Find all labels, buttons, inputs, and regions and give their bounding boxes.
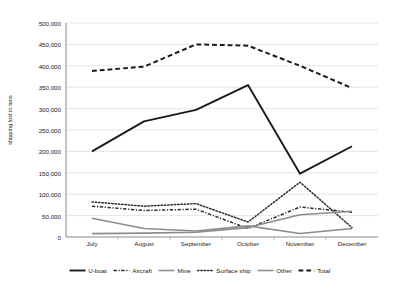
y-axis-tick-labels: 050,000100,000150,000200,000250,000300,0… — [18, 23, 64, 237]
legend-item-mine[interactable]: Mine — [158, 267, 191, 274]
x-tick-label: September — [181, 240, 211, 247]
legend-item-u-boat[interactable]: U-boat — [69, 267, 107, 274]
legend-swatch-u-boat — [69, 267, 86, 274]
y-tick-label: 450,000 — [39, 41, 61, 48]
legend-label-aircraft: Aircraft — [132, 267, 152, 274]
series-line-u-boat — [92, 85, 352, 174]
legend-label-total: Total — [317, 267, 330, 274]
line-chart: shipping lost in tons 050,000100,000150,… — [0, 0, 399, 290]
series-line-total — [92, 44, 352, 88]
legend-swatch-surface-ship — [197, 267, 214, 274]
legend-label-mine: Mine — [177, 267, 190, 274]
y-tick-label: 200,000 — [39, 148, 61, 155]
x-tick-label: October — [237, 240, 259, 247]
x-tick-label: July — [86, 240, 97, 247]
legend-swatch-mine — [158, 267, 175, 274]
chart-legend: U-boatAircraftMineSurface shipOtherTotal — [0, 262, 399, 278]
y-tick-label: 150,000 — [39, 169, 61, 176]
legend-item-total[interactable]: Total — [298, 267, 331, 274]
y-tick-label: 100,000 — [39, 191, 61, 198]
y-tick-label: 0 — [58, 234, 61, 241]
y-tick-label: 300,000 — [39, 105, 61, 112]
legend-swatch-other — [257, 267, 274, 274]
legend-item-aircraft[interactable]: Aircraft — [113, 267, 152, 274]
y-tick-label: 50,000 — [42, 212, 61, 219]
y-tick-label: 400,000 — [39, 62, 61, 69]
y-axis-title: shipping lost in tons — [0, 0, 20, 240]
legend-swatch-total — [298, 267, 315, 274]
legend-swatch-aircraft — [113, 267, 130, 274]
series-line-mine — [92, 218, 352, 233]
series-line-surface-ship — [92, 182, 352, 227]
legend-label-surface-ship: Surface ship — [216, 267, 250, 274]
legend-item-other[interactable]: Other — [257, 267, 292, 274]
x-tick-label: August — [134, 240, 153, 247]
series-line-other — [92, 211, 352, 233]
legend-item-surface-ship[interactable]: Surface ship — [197, 267, 251, 274]
y-axis-title-label: shipping lost in tons — [7, 95, 13, 144]
y-tick-label: 250,000 — [39, 127, 61, 134]
y-tick-label: 350,000 — [39, 84, 61, 91]
x-axis-tick-labels: JulyAugustSeptemberOctoberNovemberDecemb… — [66, 240, 378, 252]
y-tick-label: 500,000 — [39, 20, 61, 27]
plot-svg — [66, 23, 378, 237]
x-tick-label: December — [338, 240, 367, 247]
legend-label-other: Other — [276, 267, 291, 274]
plot-area — [66, 23, 378, 237]
legend-label-u-boat: U-boat — [88, 267, 107, 274]
x-tick-label: November — [286, 240, 315, 247]
